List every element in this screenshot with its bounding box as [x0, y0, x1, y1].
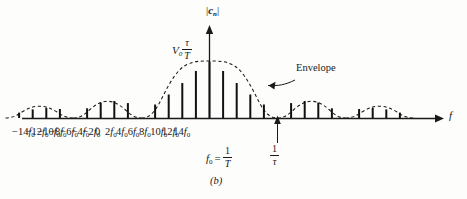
one-over-tau-fraction: 1 τ [270, 144, 279, 167]
fraction-denominator: T [223, 157, 233, 170]
x-tick-text: 0 [95, 126, 100, 137]
x-tick-label: 6f0 [128, 127, 140, 138]
x-tick-label: 2f0 [105, 127, 117, 138]
tau-null-pointer [274, 116, 281, 144]
fraction-denominator: τ [270, 155, 279, 168]
figure-caption: (b) [210, 176, 222, 187]
tau-definition-label: 1 τ [270, 146, 279, 169]
x-tick-label: 0 [95, 127, 100, 138]
f0-subscript: 0 [209, 158, 213, 166]
x-tick-text: 8f [139, 126, 147, 137]
x-axis-label: f [449, 110, 452, 121]
f0-definition-label: f0= 1 T [206, 148, 232, 171]
fraction-numerator: 1 [270, 144, 279, 155]
envelope-leader-arrow [268, 80, 295, 89]
x-tick-text: 2f [105, 126, 113, 137]
line-spectrum-plot [0, 0, 467, 199]
x-tick-text: 6f [128, 126, 136, 137]
peak-symbol: V [172, 44, 179, 56]
figure-container: |cn| f V0 τ T Envelope f0= 1 T 1 τ (b) −… [0, 0, 467, 199]
tau-over-T-fraction: τ T [182, 38, 192, 61]
fraction-numerator: τ [182, 38, 192, 49]
x-tick-text: 4f [116, 126, 124, 137]
spectral-lines [19, 62, 400, 119]
peak-amplitude-label: V0 τ T [172, 40, 192, 63]
fraction-denominator: T [182, 49, 192, 62]
frequency-axis [22, 115, 444, 123]
y-axis-subscript: n [213, 10, 217, 18]
y-axis-label: |cn| [206, 5, 219, 16]
equals-sign: = [213, 152, 223, 164]
x-tick-label: 14f0 [173, 127, 190, 138]
y-axis-bar-right: | [217, 4, 219, 16]
fraction-numerator: 1 [223, 146, 233, 157]
x-tick-subscript: 0 [187, 131, 191, 139]
x-tick-label: 4f0 [116, 127, 128, 138]
x-tick-label: 8f0 [139, 127, 151, 138]
x-tick-text: 14f [173, 126, 186, 137]
envelope-annotation-label: Envelope [296, 63, 336, 74]
one-over-T-fraction: 1 T [223, 146, 233, 169]
